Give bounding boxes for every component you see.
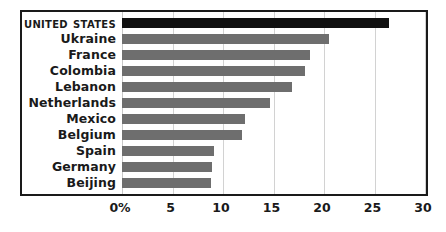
bar-row: Ukraine <box>22 31 426 47</box>
category-label: Mexico <box>66 111 116 127</box>
x-tick-label: 30 <box>414 200 431 215</box>
category-label: Spain <box>76 143 116 159</box>
plot-area: United StatesUkraineFranceColombiaLebano… <box>20 10 428 196</box>
bar <box>122 82 292 93</box>
bar <box>122 178 211 189</box>
bar-row: Spain <box>22 143 426 159</box>
x-tick-label: 5 <box>166 200 175 215</box>
bar <box>122 98 270 109</box>
bar-row: Germany <box>22 159 426 175</box>
bar <box>122 114 245 125</box>
bar <box>122 66 305 77</box>
category-label: Germany <box>52 159 116 175</box>
bar <box>122 50 310 61</box>
bar-row: Mexico <box>22 111 426 127</box>
x-tick-label: 15 <box>263 200 280 215</box>
bar <box>122 34 329 45</box>
x-tick-label: 20 <box>313 200 330 215</box>
category-label: Colombia <box>50 63 116 79</box>
category-label: Belgium <box>58 127 116 143</box>
bar-row: Belgium <box>22 127 426 143</box>
category-label: Netherlands <box>28 95 116 111</box>
bar-rows: United StatesUkraineFranceColombiaLebano… <box>22 12 426 194</box>
bar-row: Lebanon <box>22 79 426 95</box>
category-label: Beijing <box>67 175 116 191</box>
category-label: Ukraine <box>61 31 116 47</box>
bar-row: United States <box>22 15 426 31</box>
category-label: United States <box>24 15 116 31</box>
category-label: France <box>68 47 116 63</box>
bar-row: Colombia <box>22 63 426 79</box>
x-tick-label: 25 <box>364 200 381 215</box>
bar <box>122 18 389 29</box>
bar <box>122 162 212 173</box>
bar-row: Netherlands <box>22 95 426 111</box>
bar-row: France <box>22 47 426 63</box>
x-axis: 0%51015202530 <box>20 196 428 226</box>
bar <box>122 146 214 157</box>
category-label: Lebanon <box>55 79 116 95</box>
bar-chart: United StatesUkraineFranceColombiaLebano… <box>0 0 446 232</box>
bar-row: Beijing <box>22 175 426 191</box>
x-tick-label: 10 <box>212 200 229 215</box>
x-tick-label: 0% <box>109 200 130 215</box>
bar <box>122 130 242 141</box>
